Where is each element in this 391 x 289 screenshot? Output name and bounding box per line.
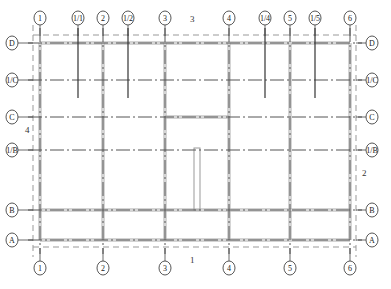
axis-bubble-bottom-1: 2 xyxy=(97,248,109,275)
axis-bubble-right-2-label: C xyxy=(369,113,374,122)
axis-bubble-top-9: 6 xyxy=(344,11,356,36)
axis-bubble-bottom-0: 1 xyxy=(34,248,46,275)
axis-bubble-bottom-2-label: 3 xyxy=(163,264,167,273)
axis-bubble-left-1-label: 1/C xyxy=(6,76,18,85)
axis-bubble-top-5: 4 xyxy=(223,11,235,36)
axis-bubble-top-6-label: 1/4 xyxy=(260,14,270,23)
side-label-right: 2 xyxy=(362,168,367,178)
axis-bubble-bottom-3-label: 4 xyxy=(227,264,231,273)
axis-bubble-right-4-label: B xyxy=(369,206,374,215)
axis-bubble-bottom-2: 3 xyxy=(159,248,171,275)
axis-bubble-left-3-label: 1/B xyxy=(6,146,18,155)
axis-bubble-top-4-label: 3 xyxy=(163,14,167,23)
axis-bubble-top-1-label: 1/1 xyxy=(73,14,83,23)
axis-bubble-bottom-1-label: 2 xyxy=(101,264,105,273)
axis-bubble-right-4: B xyxy=(356,203,378,217)
axis-bubble-left-4-label: B xyxy=(9,206,14,215)
axis-bubble-right-0-label: D xyxy=(369,39,375,48)
axis-bubble-bottom-3: 4 xyxy=(223,248,235,275)
axis-bubble-top-2-label: 2 xyxy=(101,14,105,23)
axis-bubble-top-4: 3 xyxy=(159,11,171,36)
side-label-bottom: 1 xyxy=(190,255,195,265)
axis-bubble-top-8-label: 1/5 xyxy=(310,14,320,23)
axis-bubble-top-0: 1 xyxy=(34,11,46,36)
axis-bubble-left-5-label: A xyxy=(9,236,15,245)
axis-bubble-right-3-label: 1/B xyxy=(366,146,378,155)
axis-bubble-top-5-label: 4 xyxy=(227,14,231,23)
axis-bubble-right-1-label: 1/C xyxy=(366,76,378,85)
axis-bubbles: 11/121/2341/451/56123456D1/CC1/BBAD1/CC1… xyxy=(6,11,378,275)
stair-slot xyxy=(194,148,200,210)
axis-bubble-bottom-4: 5 xyxy=(284,248,296,275)
axis-bubble-bottom-4-label: 5 xyxy=(288,264,292,273)
axis-lines xyxy=(28,28,362,254)
axis-bubble-right-5-label: A xyxy=(369,236,375,245)
axis-bubble-left-5: A xyxy=(6,233,33,247)
axis-bubble-top-2: 2 xyxy=(97,11,109,36)
axis-bubble-left-2-label: C xyxy=(9,113,14,122)
axis-bubble-bottom-5-label: 6 xyxy=(348,264,352,273)
axis-bubble-left-4: B xyxy=(6,203,33,217)
axis-bubble-right-1: 1/C xyxy=(356,73,378,87)
axis-bubble-left-0-label: D xyxy=(9,39,15,48)
axis-bubble-top-6: 1/4 xyxy=(259,11,271,36)
axis-bubble-left-0: D xyxy=(6,36,33,50)
axis-bubble-left-2: C xyxy=(6,110,33,124)
floor-plan-drawing: 11/121/2341/451/56123456D1/CC1/BBAD1/CC1… xyxy=(0,0,391,289)
axis-bubble-bottom-0-label: 1 xyxy=(38,264,42,273)
axis-bubble-right-5: A xyxy=(356,233,378,247)
axis-bubble-top-7: 5 xyxy=(284,11,296,36)
axis-bubble-bottom-5: 6 xyxy=(344,248,356,275)
axis-bubble-top-0-label: 1 xyxy=(38,14,42,23)
axis-bubble-right-3: 1/B xyxy=(356,143,378,157)
axis-bubble-right-0: D xyxy=(356,36,378,50)
axis-bubble-top-3: 1/2 xyxy=(122,11,134,36)
side-label-top: 3 xyxy=(190,14,195,24)
dimension-frame xyxy=(33,25,356,257)
axis-bubble-left-1: 1/C xyxy=(6,73,33,87)
axis-bubble-top-9-label: 6 xyxy=(348,14,352,23)
axis-bubble-top-7-label: 5 xyxy=(288,14,292,23)
axis-bubble-left-3: 1/B xyxy=(6,143,33,157)
axis-bubble-top-3-label: 1/2 xyxy=(123,14,133,23)
axis-bubble-top-8: 1/5 xyxy=(309,11,321,36)
axis-bubble-right-2: C xyxy=(356,110,378,124)
axis-bubble-top-1: 1/1 xyxy=(72,11,84,36)
side-label-left: 4 xyxy=(25,125,30,135)
